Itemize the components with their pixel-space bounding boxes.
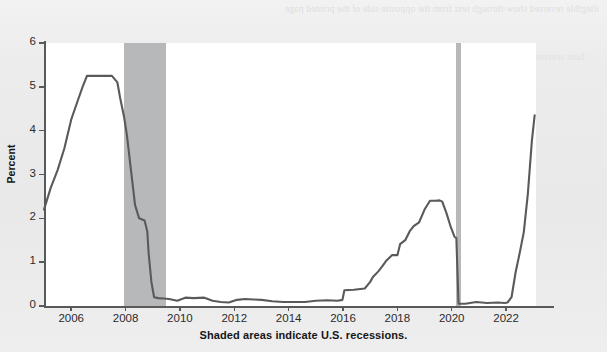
y-axis-title: Percent	[5, 134, 17, 194]
x-tick-2020	[451, 306, 452, 311]
x-tick-2008	[125, 306, 126, 311]
x-tick-label-2014: 2014	[264, 312, 314, 324]
y-tick-3	[39, 174, 44, 175]
recession-band-1	[124, 43, 166, 306]
y-tick-label-2: 2	[14, 210, 36, 222]
y-tick-label-5: 5	[14, 79, 36, 91]
recession-band-2	[456, 43, 461, 306]
y-tick-label-6: 6	[14, 35, 36, 47]
plot-area	[44, 43, 536, 306]
x-tick-2006	[70, 306, 71, 311]
x-tick-label-2018: 2018	[372, 312, 422, 324]
y-tick-5	[39, 86, 44, 87]
x-tick-label-2016: 2016	[318, 312, 368, 324]
x-tick-label-2012: 2012	[209, 312, 259, 324]
y-tick-2	[39, 218, 44, 219]
x-axis-line	[44, 306, 554, 308]
y-axis-line	[44, 41, 46, 308]
y-tick-label-1: 1	[14, 254, 36, 266]
x-tick-label-2008: 2008	[101, 312, 151, 324]
federal-funds-rate-chart: Percent 0123456 200620082010201220142016…	[0, 0, 607, 352]
y-tick-4	[39, 130, 44, 131]
x-tick-label-2006: 2006	[46, 312, 96, 324]
x-tick-2018	[397, 306, 398, 311]
y-tick-1	[39, 261, 44, 262]
x-tick-2010	[179, 306, 180, 311]
x-tick-2012	[234, 306, 235, 311]
x-tick-label-2022: 2022	[481, 312, 531, 324]
x-tick-2016	[342, 306, 343, 311]
x-tick-2022	[505, 306, 506, 311]
y-tick-label-0: 0	[14, 298, 36, 310]
y-tick-6	[39, 42, 44, 43]
chart-caption: Shaded areas indicate U.S. recessions.	[0, 329, 607, 341]
y-tick-label-4: 4	[14, 123, 36, 135]
x-tick-2014	[288, 306, 289, 311]
y-tick-label-3: 3	[14, 167, 36, 179]
x-tick-label-2020: 2020	[427, 312, 477, 324]
x-tick-label-2010: 2010	[155, 312, 205, 324]
y-tick-0	[39, 305, 44, 306]
